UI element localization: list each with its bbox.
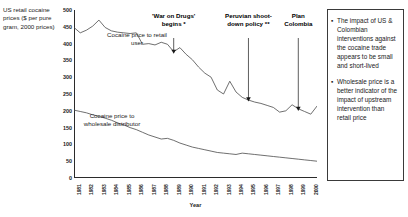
x-tick-label: 1991	[201, 184, 207, 195]
y-tick-label: 0	[56, 175, 72, 181]
y-tick-label: 100	[56, 141, 72, 147]
x-tick-label: 1992	[213, 184, 219, 195]
x-tick-label: 1981	[76, 184, 82, 195]
x-tick-label: 1985	[126, 184, 132, 195]
x-tick-label: 1983	[101, 184, 107, 195]
x-tick-label: 1982	[88, 184, 94, 195]
x-axis-title: Year	[74, 202, 317, 208]
series-label-wholesale: Cocaine price to wholesale distributor	[76, 112, 148, 128]
x-tick-label: 1994	[238, 184, 244, 195]
x-tick-label: 1999	[300, 184, 306, 195]
y-tick-label: 200	[56, 108, 72, 114]
x-axis-tick-labels: 1981198219831984198519861987198819891990…	[74, 179, 317, 201]
x-tick-label: 1989	[176, 184, 182, 195]
y-tick-label: 350	[56, 57, 72, 63]
annotation-arrows	[171, 38, 300, 111]
x-tick-label: 1995	[250, 184, 256, 195]
y-tick-label: 300	[56, 74, 72, 80]
x-tick-label: 1993	[226, 184, 232, 195]
takeaways-callout-box: ▪The impact of US & Colombian interventi…	[327, 9, 404, 181]
chart-screenshot: US retail cocaine prices ($ per pure gra…	[0, 0, 408, 217]
x-tick-label: 1990	[188, 184, 194, 195]
y-tick-label: 500	[56, 7, 72, 13]
y-tick-label: 50	[56, 158, 72, 164]
x-tick-label: 1997	[275, 184, 281, 195]
annotation-label-peruvian-shootdown: Peruvian shoot- down policy **	[216, 12, 280, 27]
x-tick-label: 1986	[138, 184, 144, 195]
series-label-retail: Cocaine price to retail user	[104, 31, 170, 47]
x-tick-label: 1987	[151, 184, 157, 195]
takeaway-bullet: ▪Wholesale price is a better indicator o…	[331, 77, 399, 122]
takeaway-bullet-text: Wholesale price is a better indicator of…	[337, 77, 399, 122]
x-tick-label: 1996	[263, 184, 269, 195]
y-tick-label: 400	[56, 41, 72, 47]
y-axis-title: US retail cocaine prices ($ per pure gra…	[3, 6, 55, 31]
annotation-label-war-on-drugs: 'War on Drugs' begins *	[143, 12, 205, 27]
y-tick-label: 450	[56, 24, 72, 30]
annotation-label-plan-colombia: Plan Colombia	[276, 12, 320, 27]
x-tick-label: 1988	[163, 184, 169, 195]
takeaway-bullet: ▪The impact of US & Colombian interventi…	[331, 16, 399, 70]
x-tick-label: 1998	[288, 184, 294, 195]
x-tick-label: 2000	[313, 184, 319, 195]
takeaway-bullet-text: The impact of US & Colombian interventio…	[337, 16, 399, 70]
y-tick-label: 150	[56, 125, 72, 131]
y-tick-label: 250	[56, 91, 72, 97]
y-axis-tick-labels: 050100150200250300350400450500	[55, 10, 72, 178]
x-tick-label: 1984	[113, 184, 119, 195]
